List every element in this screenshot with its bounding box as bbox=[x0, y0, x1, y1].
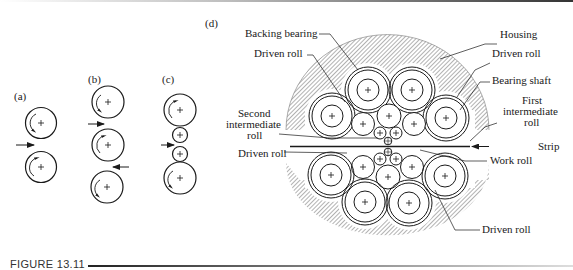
top-roll bbox=[92, 86, 124, 118]
callout-second-intermediate-roll-line3: roll bbox=[247, 129, 262, 141]
callout-driven-roll-upper-left: Driven roll bbox=[254, 47, 303, 59]
callout-work-roll: Work roll bbox=[490, 154, 532, 166]
upper-work-roll bbox=[173, 128, 188, 143]
panel-b-label: (b) bbox=[88, 73, 101, 86]
upper-roll bbox=[26, 108, 57, 139]
figure-number-label: FIGURE 13.11 bbox=[10, 258, 85, 270]
callout-housing: Housing bbox=[500, 28, 538, 40]
callout-first-intermediate-roll-line3: roll bbox=[524, 116, 539, 128]
panel-c-label: (c) bbox=[162, 73, 175, 86]
callout-backing-bearing: Backing bearing bbox=[245, 27, 318, 39]
middle-roll bbox=[92, 129, 124, 161]
callout-driven-roll-upper-right: Driven roll bbox=[492, 47, 541, 59]
rotation-arrow-icon bbox=[30, 158, 37, 176]
callout-driven-roll-lower-left: Driven roll bbox=[238, 147, 287, 159]
lower-backup-roll bbox=[164, 162, 196, 194]
bottom-roll bbox=[91, 171, 123, 203]
callout-driven-roll-lower-right: Driven roll bbox=[482, 223, 531, 235]
callout-bearing-shaft: Bearing shaft bbox=[492, 74, 551, 86]
panel-c: (c) bbox=[161, 73, 196, 194]
bottom-rule bbox=[88, 265, 573, 267]
callout-strip: Strip bbox=[538, 140, 560, 152]
panel-d-label: (d) bbox=[205, 17, 218, 30]
lower-work-roll bbox=[173, 147, 188, 162]
rotation-arrow-icon bbox=[30, 114, 36, 131]
panel-b: (b) bbox=[88, 73, 129, 203]
panel-a: (a) bbox=[14, 90, 57, 183]
panel-a-label: (a) bbox=[14, 90, 27, 103]
upper-backup-roll bbox=[164, 94, 196, 126]
lower-roll bbox=[26, 152, 57, 183]
